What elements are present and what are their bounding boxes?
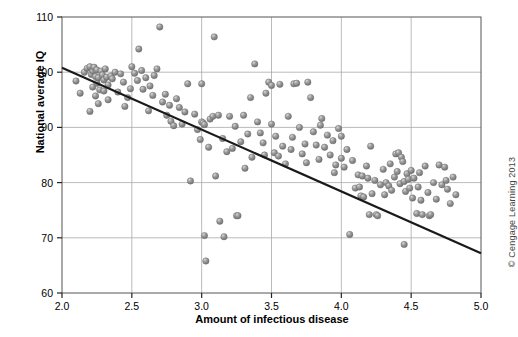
svg-text:70: 70 xyxy=(41,232,53,244)
scatter-plot-svg: 2.02.53.03.54.04.55.0 60708090100110 xyxy=(0,0,518,337)
gridlines xyxy=(62,17,481,293)
svg-text:4.0: 4.0 xyxy=(334,300,349,312)
data-points xyxy=(73,24,459,264)
axis-ticks xyxy=(57,17,481,298)
svg-text:3.5: 3.5 xyxy=(264,300,279,312)
svg-text:2.5: 2.5 xyxy=(125,300,140,312)
svg-text:4.5: 4.5 xyxy=(404,300,419,312)
y-axis-title: National average IQ xyxy=(34,22,46,182)
x-axis-title: Amount of infectious disease xyxy=(62,313,482,325)
svg-text:60: 60 xyxy=(41,287,53,299)
copyright-notice: © Cengage Learning 2013 xyxy=(507,137,517,287)
svg-text:3.0: 3.0 xyxy=(194,300,209,312)
figure-container: 2.02.53.03.54.04.55.0 60708090100110 Nat… xyxy=(0,0,518,337)
svg-text:5.0: 5.0 xyxy=(474,300,489,312)
x-tick-labels: 2.02.53.03.54.04.55.0 xyxy=(55,300,489,312)
svg-text:2.0: 2.0 xyxy=(55,300,70,312)
